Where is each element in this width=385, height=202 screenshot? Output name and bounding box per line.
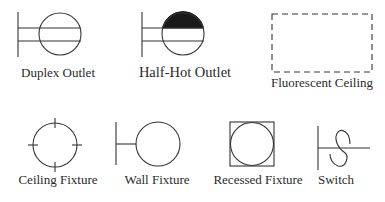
label-duplex-outlet: Duplex Outlet [21,66,95,79]
symbol-legend: Duplex Outlet Half-Hot Outlet Fluorescen… [0,0,385,202]
wall-fixture-icon [116,122,180,166]
switch-icon [318,126,370,170]
label-switch: Switch [318,173,354,186]
label-recessed-fixture: Recessed Fixture [213,173,302,186]
ceiling-fixture-icon [28,118,82,172]
duplex-outlet-icon [18,12,81,57]
label-fluorescent-ceiling: Fluorescent Ceiling [271,76,373,89]
recessed-fixture-icon [230,122,274,166]
label-half-hot-outlet: Half-Hot Outlet [139,65,231,80]
half-hot-outlet-icon [142,12,204,57]
label-wall-fixture: Wall Fixture [124,173,189,186]
label-ceiling-fixture: Ceiling Fixture [18,173,97,186]
fluorescent-ceiling-icon [272,14,372,72]
